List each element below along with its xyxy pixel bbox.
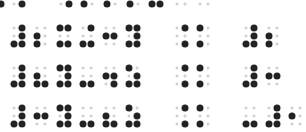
braille-dot xyxy=(13,3,16,6)
braille-dot xyxy=(59,75,62,78)
braille-dot xyxy=(245,75,248,78)
braille-dot xyxy=(245,67,248,70)
braille-dot xyxy=(182,25,189,32)
braille-dot xyxy=(57,81,64,88)
braille-dot xyxy=(197,41,204,48)
braille-dot xyxy=(88,25,95,32)
braille-dot xyxy=(82,27,85,30)
braille-dot xyxy=(134,81,141,88)
braille-dot xyxy=(276,35,279,38)
braille-dot xyxy=(114,3,117,6)
braille-dot xyxy=(19,81,26,88)
braille-dot xyxy=(126,121,133,128)
braille-dot xyxy=(134,33,141,40)
braille-dot xyxy=(199,3,202,6)
braille-dot xyxy=(157,1,164,8)
braille-dot xyxy=(128,75,131,78)
braille-dot xyxy=(136,107,139,110)
braille-dot xyxy=(176,83,179,86)
braille-dot xyxy=(13,75,16,78)
braille-dot xyxy=(251,73,258,80)
braille-dot xyxy=(36,107,39,110)
braille-dot xyxy=(268,83,271,86)
braille-dot xyxy=(176,123,179,126)
braille-dot xyxy=(103,121,110,128)
braille-dot xyxy=(36,27,39,30)
braille-dot xyxy=(268,115,271,118)
braille-dot xyxy=(103,113,110,120)
braille-dot xyxy=(268,67,271,70)
braille-dot xyxy=(268,107,271,110)
braille-dot xyxy=(253,107,256,110)
braille-dot xyxy=(182,121,189,128)
braille-dot xyxy=(19,121,26,128)
braille-dot xyxy=(199,115,202,118)
braille-dot xyxy=(19,25,26,32)
braille-dot xyxy=(128,35,131,38)
braille-dot xyxy=(253,115,256,118)
braille-dot xyxy=(276,83,279,86)
braille-dot xyxy=(207,43,210,46)
braille-dot xyxy=(266,33,273,40)
braille-dot xyxy=(243,121,250,128)
braille-dot xyxy=(266,41,273,48)
braille-dot xyxy=(44,107,47,110)
braille-dot xyxy=(82,35,85,38)
braille-dot xyxy=(289,113,296,120)
braille-dot xyxy=(88,121,95,128)
braille-dot xyxy=(276,67,279,70)
braille-dot xyxy=(105,67,108,70)
braille-dot xyxy=(34,33,41,40)
braille-dot xyxy=(251,41,258,48)
braille-dot xyxy=(184,3,187,6)
braille-dot xyxy=(82,115,85,118)
braille-dot xyxy=(197,65,204,72)
braille-dot xyxy=(105,27,108,30)
braille-dot xyxy=(65,73,72,80)
braille-dot xyxy=(182,41,189,48)
braille-dot xyxy=(176,67,179,70)
braille-dot xyxy=(245,35,248,38)
braille-dot xyxy=(90,115,93,118)
braille-dot xyxy=(91,3,94,6)
braille-dot xyxy=(19,73,26,80)
braille-dot xyxy=(299,107,302,110)
braille-dot xyxy=(111,81,118,88)
braille-dot xyxy=(207,35,210,38)
braille-dot xyxy=(90,35,93,38)
braille-dot xyxy=(274,73,281,80)
braille-dot xyxy=(176,27,179,30)
braille-dot xyxy=(59,35,62,38)
braille-dot xyxy=(34,81,41,88)
braille-dot xyxy=(66,1,73,8)
braille-dot xyxy=(113,67,116,70)
braille-dot xyxy=(136,67,139,70)
braille-dot xyxy=(299,123,302,126)
braille-dot xyxy=(134,113,141,120)
braille-dot xyxy=(251,65,258,72)
braille-dot xyxy=(199,35,202,38)
braille-dot xyxy=(11,121,18,128)
braille-dot xyxy=(245,27,248,30)
braille-dot xyxy=(184,35,187,38)
braille-dot xyxy=(60,3,63,6)
braille-dot xyxy=(276,43,279,46)
braille-dot xyxy=(113,107,116,110)
braille-dot xyxy=(44,27,47,30)
braille-dot xyxy=(207,83,210,86)
braille-dot xyxy=(243,81,250,88)
braille-dot xyxy=(207,75,210,78)
braille-dot xyxy=(59,115,62,118)
braille-dot xyxy=(176,75,179,78)
braille-dot xyxy=(182,81,189,88)
braille-dot xyxy=(65,121,72,128)
braille-dot xyxy=(266,73,273,80)
braille-dot xyxy=(197,81,204,88)
braille-dot xyxy=(197,105,204,112)
braille-dot xyxy=(65,105,72,112)
braille-dot xyxy=(245,115,248,118)
braille-dot xyxy=(13,67,16,70)
braille-dot xyxy=(176,115,179,118)
braille-dot xyxy=(42,113,49,120)
braille-dot xyxy=(57,41,64,48)
